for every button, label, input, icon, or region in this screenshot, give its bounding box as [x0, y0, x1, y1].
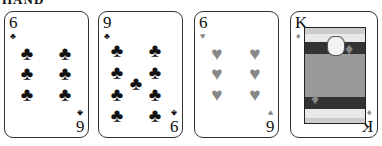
club-icon: ♣	[111, 63, 123, 82]
club-icon: ♣	[130, 74, 142, 93]
card-6-clubs[interactable]: 6 ♣ 6 ♣ ♣♣♣♣♣♣	[4, 11, 89, 138]
heart-icon: ♥	[200, 32, 205, 41]
diamond-icon: ♦	[367, 108, 372, 117]
hand-label: HAND	[2, 0, 44, 8]
heart-icon: ♥	[249, 64, 260, 83]
heart-icon: ♥	[268, 108, 273, 117]
club-icon: ♣	[21, 64, 33, 83]
king-head	[327, 36, 345, 56]
club-icon: ♣	[104, 32, 110, 41]
card-rank: 6	[76, 118, 85, 135]
club-icon: ♣	[77, 108, 83, 117]
club-icon: ♣	[149, 85, 161, 104]
club-icon: ♣	[10, 32, 16, 41]
club-icon: ♣	[111, 41, 123, 60]
club-icon: ♣	[111, 85, 123, 104]
club-icon: ♣	[21, 85, 33, 104]
heart-icon: ♥	[249, 44, 260, 63]
diamond-icon: ♦	[296, 32, 301, 41]
card-rank: 6	[199, 14, 208, 31]
card-rank: 6	[9, 14, 18, 31]
card-9-clubs[interactable]: 9 ♣ 9 ♣ ♣♣♣♣♣♣♣♣♣	[98, 11, 183, 138]
heart-icon: ♥	[249, 85, 260, 104]
club-icon: ♣	[111, 106, 123, 125]
king-face-illustration: ♦ ♦	[304, 27, 366, 124]
club-icon: ♣	[59, 64, 71, 83]
club-icon: ♣	[149, 63, 161, 82]
card-rank: 6	[266, 118, 275, 135]
heart-icon: ♥	[211, 64, 222, 83]
club-icon: ♣	[59, 44, 71, 63]
club-icon: ♣	[171, 108, 177, 117]
card-rank: 9	[170, 118, 179, 135]
diamond-icon: ♦	[311, 90, 319, 108]
diamond-icon: ♦	[345, 40, 353, 58]
card-6-hearts[interactable]: 6 ♥ 6 ♥ ♥♥♥♥♥♥	[194, 11, 279, 138]
heart-icon: ♥	[211, 85, 222, 104]
heart-icon: ♥	[211, 44, 222, 63]
club-icon: ♣	[149, 106, 161, 125]
club-icon: ♣	[149, 41, 161, 60]
club-icon: ♣	[59, 85, 71, 104]
card-rank: 9	[103, 14, 112, 31]
club-icon: ♣	[21, 44, 33, 63]
card-king-diamonds[interactable]: K ♦ K ♦ ♦ ♦	[290, 11, 378, 138]
